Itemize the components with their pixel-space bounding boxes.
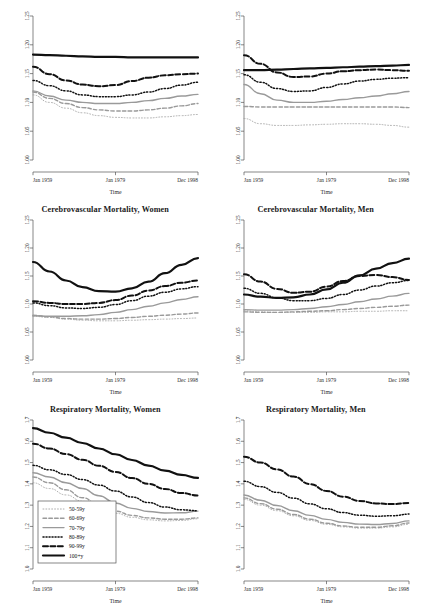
- svg-text:1.15: 1.15: [235, 69, 241, 78]
- svg-text:Time: Time: [109, 189, 121, 195]
- svg-text:1.6: 1.6: [24, 438, 30, 445]
- svg-text:1.05: 1.05: [235, 126, 241, 135]
- svg-text:1.0: 1.0: [24, 565, 30, 572]
- svg-text:1.05: 1.05: [235, 327, 241, 336]
- svg-text:1.2: 1.2: [235, 523, 241, 530]
- svg-text:Jan 1959: Jan 1959: [33, 586, 53, 592]
- svg-text:1.00: 1.00: [235, 355, 241, 364]
- svg-text:100+y: 100+y: [69, 553, 84, 559]
- svg-text:Jan 1959: Jan 1959: [244, 377, 264, 383]
- svg-text:90-99y: 90-99y: [69, 543, 85, 549]
- svg-text:Dec 1998: Dec 1998: [388, 177, 409, 183]
- svg-text:1.00: 1.00: [24, 155, 30, 164]
- svg-text:1.10: 1.10: [24, 97, 30, 106]
- panel-cardiovascular-men: Cardiovascular Mortality, Men 1.001.051.…: [211, 0, 421, 204]
- svg-text:Dec 1998: Dec 1998: [177, 377, 198, 383]
- panel-cerebrovascular-men: Cerebrovascular Mortality, Men 1.001.051…: [211, 204, 421, 404]
- plot-area: 1.001.051.101.151.201.25Jan 1959Jan 1979…: [211, 204, 421, 404]
- panel-respiratory-women: Respiratory Mortality, Women 1.01.11.21.…: [0, 404, 211, 613]
- svg-text:1.05: 1.05: [24, 126, 30, 135]
- svg-text:1.2: 1.2: [24, 523, 30, 530]
- plot-area: 1.001.051.101.151.201.25Jan 1959Jan 1979…: [0, 204, 211, 404]
- svg-text:1.3: 1.3: [24, 501, 30, 508]
- svg-text:1.20: 1.20: [235, 40, 241, 49]
- svg-text:1.20: 1.20: [24, 243, 30, 252]
- svg-text:Time: Time: [109, 389, 121, 395]
- svg-text:1.5: 1.5: [24, 459, 30, 466]
- svg-text:1.25: 1.25: [24, 11, 30, 20]
- svg-text:Dec 1998: Dec 1998: [388, 586, 409, 592]
- plot-area: 1.001.051.101.151.201.25Jan 1959Jan 1979…: [211, 0, 421, 204]
- panel-cerebrovascular-women: Cerebrovascular Mortality, Women 1.001.0…: [0, 204, 211, 404]
- svg-text:1.20: 1.20: [235, 243, 241, 252]
- svg-text:Time: Time: [320, 598, 332, 604]
- svg-text:Time: Time: [320, 189, 332, 195]
- figure-grid: Cardiovascular Mortality, Women 1.001.05…: [0, 0, 421, 613]
- svg-text:50-59y: 50-59y: [69, 506, 85, 512]
- plot-area: 1.001.051.101.151.201.25Jan 1959Jan 1979…: [0, 0, 211, 204]
- svg-text:1.25: 1.25: [235, 11, 241, 20]
- svg-text:Jan 1959: Jan 1959: [244, 177, 264, 183]
- svg-text:1.10: 1.10: [235, 299, 241, 308]
- svg-text:1.1: 1.1: [24, 544, 30, 551]
- panel-respiratory-men: Respiratory Mortality, Men 1.01.11.21.31…: [211, 404, 421, 613]
- svg-text:1.4: 1.4: [235, 480, 241, 487]
- svg-text:1.4: 1.4: [24, 480, 30, 487]
- svg-text:80-89y: 80-89y: [69, 534, 85, 540]
- svg-text:Dec 1998: Dec 1998: [177, 586, 198, 592]
- svg-text:1.7: 1.7: [235, 416, 241, 423]
- svg-text:1.25: 1.25: [235, 215, 241, 224]
- svg-text:Time: Time: [109, 598, 121, 604]
- svg-text:Dec 1998: Dec 1998: [388, 377, 409, 383]
- svg-text:1.15: 1.15: [24, 271, 30, 280]
- svg-text:Jan 1979: Jan 1979: [316, 586, 336, 592]
- svg-text:1.15: 1.15: [24, 69, 30, 78]
- svg-text:Jan 1959: Jan 1959: [244, 586, 264, 592]
- svg-text:Jan 1979: Jan 1979: [106, 377, 126, 383]
- svg-text:Jan 1979: Jan 1979: [316, 177, 336, 183]
- svg-text:60-69y: 60-69y: [69, 515, 85, 521]
- svg-text:Jan 1959: Jan 1959: [33, 377, 53, 383]
- svg-text:1.00: 1.00: [235, 155, 241, 164]
- svg-text:1.20: 1.20: [24, 40, 30, 49]
- panel-cardiovascular-women: Cardiovascular Mortality, Women 1.001.05…: [0, 0, 211, 204]
- svg-text:70-79y: 70-79y: [69, 525, 85, 531]
- svg-text:Jan 1979: Jan 1979: [316, 377, 336, 383]
- svg-text:1.05: 1.05: [24, 327, 30, 336]
- svg-text:1.0: 1.0: [235, 565, 241, 572]
- svg-text:1.15: 1.15: [235, 271, 241, 280]
- svg-text:Time: Time: [320, 389, 332, 395]
- svg-text:Jan 1979: Jan 1979: [106, 586, 126, 592]
- plot-area: 1.01.11.21.31.41.51.61.7Jan 1959Jan 1979…: [211, 404, 421, 613]
- svg-text:1.00: 1.00: [24, 355, 30, 364]
- svg-text:1.1: 1.1: [235, 544, 241, 551]
- svg-text:1.3: 1.3: [235, 501, 241, 508]
- svg-text:Jan 1979: Jan 1979: [106, 177, 126, 183]
- svg-text:1.10: 1.10: [235, 97, 241, 106]
- plot-area: 1.01.11.21.31.41.51.61.7Jan 1959Jan 1979…: [0, 404, 211, 613]
- svg-text:1.25: 1.25: [24, 215, 30, 224]
- svg-text:Jan 1959: Jan 1959: [33, 177, 53, 183]
- svg-text:1.6: 1.6: [235, 438, 241, 445]
- svg-text:1.5: 1.5: [235, 459, 241, 466]
- svg-text:1.10: 1.10: [24, 299, 30, 308]
- svg-text:1.7: 1.7: [24, 416, 30, 423]
- svg-text:Dec 1998: Dec 1998: [177, 177, 198, 183]
